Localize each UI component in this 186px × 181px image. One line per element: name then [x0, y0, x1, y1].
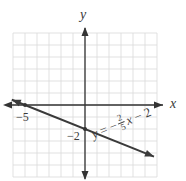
y-intercept-point — [83, 127, 87, 131]
y-axis — [82, 27, 89, 180]
y-axis-down-arrow-icon — [82, 171, 89, 180]
x-intercept-label: −5 — [16, 111, 29, 123]
y-intercept-label: −2 — [67, 130, 80, 142]
y-axis-label: y — [80, 8, 86, 22]
x-axis-label: x — [170, 97, 176, 111]
x-axis-right-arrow-icon — [154, 102, 163, 109]
x-axis-left-arrow-icon — [3, 102, 12, 109]
x-intercept-point — [23, 103, 27, 107]
coordinate-plane — [0, 0, 186, 181]
fraction-denominator: 5 — [120, 122, 128, 132]
y-axis-up-arrow-icon — [82, 27, 89, 36]
